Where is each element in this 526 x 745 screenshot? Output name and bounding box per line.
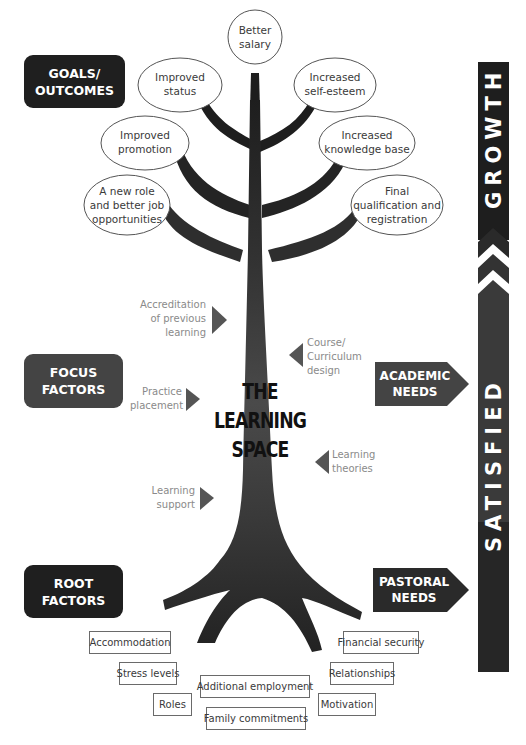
focus-line: Curriculum [307, 350, 377, 364]
root-family-commitments: Family commitments [206, 707, 306, 730]
root-additional-employment: Additional employment [200, 675, 310, 698]
learning-space-diagram: Better salary Improved status Increased … [0, 0, 526, 745]
focus-line: learning [140, 326, 206, 340]
focus-line: Practice [130, 385, 182, 399]
root-motivation: Motivation [318, 693, 376, 716]
focus-learning-theories: Learning theories [332, 448, 392, 476]
focus-line: theories [332, 462, 392, 476]
focus-line: placement [130, 399, 182, 413]
arrow-right-icon [212, 306, 227, 334]
root-roles: Roles [153, 693, 192, 716]
focus-learning-support: Learning support [140, 484, 195, 512]
focus-arrows [0, 0, 526, 745]
root-financial-security: Financial security [343, 631, 419, 654]
root-stress-levels: Stress levels [119, 662, 177, 685]
focus-course-curriculum: Course/ Curriculum design [307, 336, 377, 378]
focus-line: Learning [140, 484, 195, 498]
arrow-right-icon [200, 487, 214, 510]
focus-line: Accreditation [140, 298, 206, 312]
focus-line: Course/ [307, 336, 377, 350]
focus-line: of previous [140, 312, 206, 326]
arrow-right-icon [186, 388, 200, 411]
focus-accreditation: Accreditation of previous learning [140, 298, 206, 340]
arrow-left-icon [315, 450, 329, 474]
root-relationships: Relationships [330, 662, 394, 685]
focus-line: Learning [332, 448, 392, 462]
focus-practice-placement: Practice placement [130, 385, 182, 413]
focus-line: design [307, 364, 377, 378]
focus-line: support [140, 498, 195, 512]
root-accommodation: Accommodation [89, 631, 171, 654]
arrow-left-icon [289, 343, 303, 367]
